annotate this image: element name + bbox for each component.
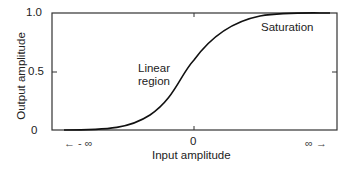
x-tick-label-0: 0 — [190, 135, 196, 147]
x-tick-label-pos-inf: ∞ → — [305, 137, 327, 149]
y-tick-label-1: 1.0 — [26, 6, 42, 18]
y-tick-label-05: 0.5 — [28, 65, 44, 77]
annotation-linear: Linear — [138, 62, 170, 74]
y-tick-label-0: 0 — [31, 124, 37, 136]
x-axis-label: Input amplitude — [152, 149, 231, 161]
x-tick-label-neg-inf: ← - ∞ — [64, 137, 93, 149]
annotation-saturation: Saturation — [261, 21, 313, 33]
annotation-region: region — [138, 75, 170, 87]
y-axis-label: Output amplitude — [15, 21, 27, 131]
